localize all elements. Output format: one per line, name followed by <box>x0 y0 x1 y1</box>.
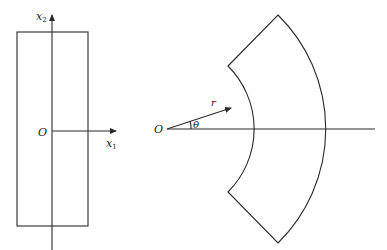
left-origin-label: O <box>38 126 47 139</box>
right-origin-label: O <box>154 123 163 136</box>
x1-label: x1 <box>106 137 117 151</box>
theta-arc <box>190 121 191 129</box>
x2-label: x2 <box>36 10 47 24</box>
r-label: r <box>211 97 217 108</box>
theta-label: θ <box>193 119 199 130</box>
right-figure: O r θ <box>154 15 375 243</box>
diagram-canvas: O x1 x2 O r θ <box>0 0 387 250</box>
left-figure: O x1 x2 <box>17 10 117 250</box>
